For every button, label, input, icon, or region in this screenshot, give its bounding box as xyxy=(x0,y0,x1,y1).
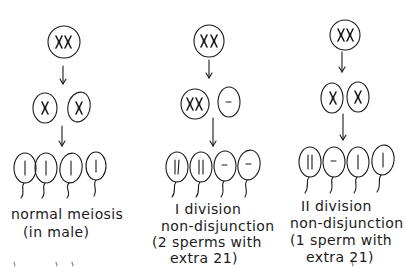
chromosome-icon xyxy=(330,92,336,104)
second-division-cell xyxy=(181,89,209,119)
sperm-cell xyxy=(323,147,345,193)
chromosome-icon xyxy=(187,98,193,110)
caption-first-division-line4: extra 21) xyxy=(170,250,238,266)
sperm-cell xyxy=(86,152,106,196)
chromosome-icon xyxy=(65,36,71,48)
sperm-cell xyxy=(190,152,212,197)
sperm-cell xyxy=(299,147,321,193)
parent-cell xyxy=(48,26,80,58)
second-division-cell xyxy=(33,93,57,123)
second-division-cell xyxy=(347,82,369,112)
caption-second-division-line2: non-disjunction xyxy=(290,215,404,231)
caption-first-division-line2: non-disjunction xyxy=(161,218,275,234)
sperm-cell xyxy=(370,144,396,192)
arrow-down-icon xyxy=(206,60,212,78)
column-second-division-nondisjunction xyxy=(299,20,396,193)
sperm-cell xyxy=(166,152,188,197)
sperm-cell xyxy=(347,147,369,193)
arrow-down-icon xyxy=(340,114,346,140)
chromosome-icon xyxy=(42,102,48,114)
chromosome-icon xyxy=(347,29,353,41)
caption-second-division-line3: (1 sperm with xyxy=(290,232,392,248)
chromosome-icon xyxy=(338,29,344,41)
arrow-down-icon xyxy=(59,126,65,146)
chromosome-icon xyxy=(211,35,217,47)
chromosome-icon xyxy=(201,35,207,47)
chromosome-icon xyxy=(76,102,82,114)
caption-normal-line2: (in male) xyxy=(23,224,89,240)
chromosome-icon xyxy=(355,91,361,103)
caption-second-division-line4: extra 21) xyxy=(306,249,374,265)
sperm-cell xyxy=(58,151,85,198)
second-division-cell xyxy=(321,83,343,113)
caption-second-division-line1: II division xyxy=(301,198,372,214)
caption-first-division-line3: (2 sperms with xyxy=(152,234,262,250)
arrow-down-icon xyxy=(210,118,216,146)
sperm-cell xyxy=(35,153,57,198)
sperm-cell xyxy=(14,153,36,198)
sperm-cell xyxy=(214,151,236,197)
second-division-cell xyxy=(65,90,93,124)
column-first-division-nondisjunction xyxy=(166,25,262,197)
second-division-cell xyxy=(218,87,240,117)
caption-first-division-line1: I division xyxy=(175,201,241,217)
column-normal-meiosis xyxy=(14,26,106,198)
chromosome-icon xyxy=(56,36,62,48)
arrow-down-icon xyxy=(339,52,345,72)
chromosome-icon xyxy=(196,98,202,110)
caption-normal-line1: normal meiosis xyxy=(11,206,123,222)
arrow-down-icon xyxy=(60,66,66,84)
parent-cell xyxy=(194,25,224,57)
sperm-cell xyxy=(236,148,263,197)
parent-cell xyxy=(330,20,360,50)
